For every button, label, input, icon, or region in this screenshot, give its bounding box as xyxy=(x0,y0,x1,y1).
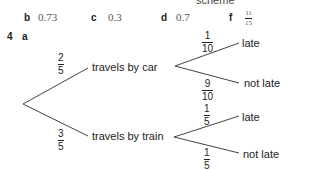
train-late-probability: 15 xyxy=(204,104,210,127)
train-not-late-probability: 15 xyxy=(204,148,210,170)
node-travels-by-car: travels by car xyxy=(92,61,157,73)
branch-train-probability: 35 xyxy=(58,129,64,152)
outcome-train-late: late xyxy=(242,111,260,123)
numerator: 1 xyxy=(204,104,210,114)
numerator: 1 xyxy=(205,31,211,41)
outcome-car-late: late xyxy=(242,37,260,49)
outcome-train-not-late: not late xyxy=(243,148,279,160)
numerator: 1 xyxy=(204,148,210,158)
denominator: 10 xyxy=(202,44,213,54)
car-not-late-probability: 910 xyxy=(202,79,213,102)
denominator: 5 xyxy=(204,161,210,170)
denominator: 10 xyxy=(202,92,213,102)
car-late-probability: 110 xyxy=(202,31,213,54)
denominator: 5 xyxy=(58,142,64,152)
numerator: 2 xyxy=(58,53,64,63)
numerator: 9 xyxy=(205,79,211,89)
node-travels-by-train: travels by train xyxy=(92,130,164,142)
denominator: 5 xyxy=(204,117,210,127)
denominator: 5 xyxy=(58,66,64,76)
outcome-car-not-late: not late xyxy=(244,77,280,89)
branch-car-probability: 25 xyxy=(58,53,64,76)
numerator: 3 xyxy=(58,129,64,139)
